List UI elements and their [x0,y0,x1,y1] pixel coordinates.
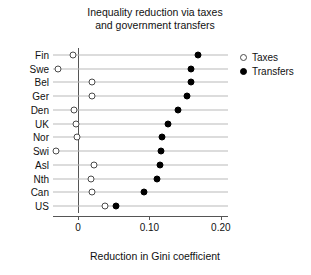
data-point-taxes [55,65,62,72]
chart-legend: Taxes Transfers [240,50,294,78]
data-point-transfers [159,134,166,141]
row-baseline [53,206,228,207]
x-axis-tick-label: 0.20 [211,222,230,233]
data-point-transfers [187,79,194,86]
chart-title-line-2: and government transfers [40,19,270,32]
y-axis-tick-label: Can [31,187,49,198]
row-baseline [53,54,228,55]
y-axis-tick-label: Den [31,104,49,115]
row-baseline [53,109,228,110]
row-baseline [53,96,228,97]
data-point-taxes [88,93,95,100]
data-point-taxes [70,106,77,113]
data-point-transfers [195,51,202,58]
legend-label-transfers: Transfers [252,66,294,77]
row-baseline [53,178,228,179]
x-axis-tick-label: 0.10 [140,222,159,233]
x-axis-tick [221,216,222,220]
data-point-transfers [157,148,164,155]
row-baseline [53,68,228,69]
y-axis-tick-label: Swe [30,63,49,74]
chart-row: Den [53,103,228,117]
x-axis-title: Reduction in Gini coefficient [40,250,270,262]
x-axis-tick [149,216,150,220]
chart-row: Fin [53,48,228,62]
plot-area: FinSweBelGerDenUKNorSwiAslNthCanUS [53,48,228,213]
x-axis-tick [78,216,79,220]
chart-title: Inequality reduction via taxes and gover… [40,6,270,31]
y-axis-tick-label: UK [35,118,49,129]
data-point-transfers [153,175,160,182]
chart-row: US [53,199,228,213]
legend-item-transfers: Transfers [240,64,294,78]
data-point-transfers [157,161,164,168]
chart-row: UK [53,117,228,131]
chart-row: Nor [53,131,228,145]
y-axis-tick-label: US [35,201,49,212]
data-point-transfers [187,65,194,72]
data-point-taxes [89,79,96,86]
data-point-taxes [88,189,95,196]
y-axis-tick-label: Nth [33,173,49,184]
x-axis [53,216,228,217]
filled-circle-icon [240,68,247,75]
open-circle-icon [240,54,247,61]
data-point-transfers [140,189,147,196]
row-baseline [53,164,228,165]
legend-label-taxes: Taxes [252,52,278,63]
inequality-reduction-chart: Inequality reduction via taxes and gover… [0,0,311,275]
data-point-transfers [112,203,119,210]
legend-item-taxes: Taxes [240,50,294,64]
data-point-taxes [102,203,109,210]
data-point-transfers [183,93,190,100]
data-point-transfers [175,106,182,113]
y-axis-tick-label: Bel [35,77,49,88]
chart-row: Swi [53,144,228,158]
y-axis-tick-label: Ger [32,91,49,102]
y-axis-tick-label: Asl [35,159,49,170]
row-baseline [53,82,228,83]
chart-row: Swe [53,62,228,76]
data-point-taxes [87,175,94,182]
row-baseline [53,151,228,152]
y-axis-tick-label: Nor [33,132,49,143]
data-point-taxes [70,51,77,58]
chart-row: Ger [53,89,228,103]
y-axis-tick-label: Swi [33,146,49,157]
chart-row: Asl [53,158,228,172]
chart-title-line-1: Inequality reduction via taxes [40,6,270,19]
chart-row: Nth [53,172,228,186]
data-point-taxes [91,161,98,168]
data-point-taxes [52,148,59,155]
chart-row: Can [53,186,228,200]
x-axis-tick-label: 0 [75,222,81,233]
y-axis-tick-label: Fin [35,49,49,60]
data-point-taxes [72,120,79,127]
chart-row: Bel [53,76,228,90]
data-point-transfers [165,120,172,127]
data-point-taxes [73,134,80,141]
